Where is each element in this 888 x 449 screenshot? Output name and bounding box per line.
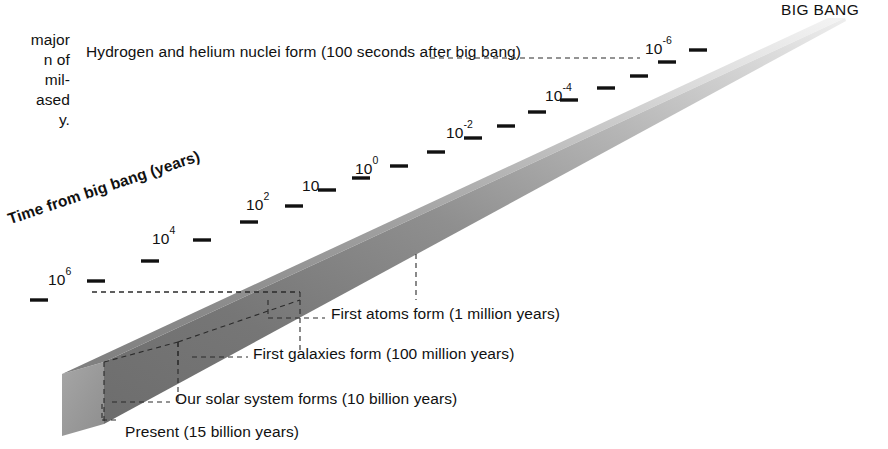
caption-line-3: mil- [0, 70, 70, 90]
timeline-beam-illustration [0, 0, 888, 449]
tick-label-10e-6: 10-6 [645, 41, 672, 57]
caption-line-4: ased [0, 90, 70, 110]
tick-label-10: 10 [302, 178, 319, 194]
tick-label-10e2: 102 [246, 197, 269, 213]
tick-label-10e6: 106 [48, 272, 71, 288]
event-label-first-galaxies: First galaxies form (100 million years) [253, 346, 514, 362]
left-caption-text: major n of mil- ased y. [0, 30, 70, 130]
tick-exponent: -6 [662, 34, 672, 46]
event-label-first-atoms: First atoms form (1 million years) [331, 306, 560, 322]
tick-label-10e4: 104 [152, 231, 175, 247]
big-bang-label: BIG BANG [781, 2, 859, 18]
tick-label-10e0: 100 [355, 161, 378, 177]
event-label-nuclei: Hydrogen and helium nuclei form (100 sec… [86, 44, 521, 60]
tick-exponent: -4 [562, 81, 572, 93]
beam-left-sliver [62, 362, 104, 436]
caption-line-5: y. [0, 110, 70, 130]
event-label-solar-system: Our solar system forms (10 billion years… [175, 391, 457, 407]
caption-line-2: n of [0, 50, 70, 70]
tick-label-10e-2: 10-2 [446, 125, 473, 141]
tick-exponent: 2 [263, 190, 269, 202]
event-label-present: Present (15 billion years) [125, 424, 299, 440]
tick-exponent: -2 [463, 118, 473, 130]
tick-exponent: 4 [169, 224, 175, 236]
tick-exponent: 6 [65, 265, 71, 277]
caption-line-1: major [0, 30, 70, 50]
tick-label-10e-4: 10-4 [545, 88, 572, 104]
beam-front-face [104, 18, 846, 424]
diagram-canvas: major n of mil- ased y. BIG BANG Hydroge… [0, 0, 888, 449]
tick-exponent: 0 [372, 154, 378, 166]
